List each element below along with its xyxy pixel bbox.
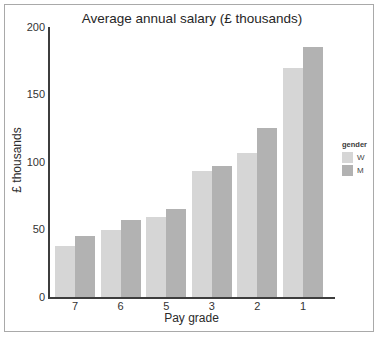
bar-W-grade-5	[146, 217, 166, 297]
legend-label-w: W	[357, 153, 365, 162]
bar-W-grade-3	[192, 171, 212, 297]
legend-swatch-m	[342, 165, 353, 176]
bar-W-grade-6	[101, 230, 121, 298]
legend-item-m: M	[342, 165, 367, 176]
bar-M-grade-1	[303, 47, 323, 297]
chart-window: Average annual salary (£ thousands) £ th…	[0, 0, 381, 341]
chart-title: Average annual salary (£ thousands)	[60, 11, 324, 26]
bar-M-grade-5	[166, 209, 186, 297]
bar-W-grade-2	[237, 153, 257, 297]
y-tick-label-0: 0	[15, 292, 45, 303]
y-tick-label-100: 100	[15, 157, 45, 168]
y-tick-label-200: 200	[15, 22, 45, 33]
bar-W-grade-7	[55, 246, 75, 297]
bar-M-grade-6	[121, 220, 141, 297]
legend: gender W M	[342, 140, 367, 178]
y-tick-label-50: 50	[15, 224, 45, 235]
bar-M-grade-7	[75, 236, 95, 297]
bar-M-grade-3	[212, 166, 232, 297]
legend-label-m: M	[357, 166, 364, 175]
y-tick-label-150: 150	[15, 89, 45, 100]
x-axis-title: Pay grade	[48, 311, 335, 325]
bar-W-grade-1	[283, 68, 303, 298]
legend-title: gender	[342, 140, 367, 149]
bar-M-grade-2	[257, 128, 277, 297]
legend-swatch-w	[342, 152, 353, 163]
legend-item-w: W	[342, 152, 367, 163]
y-axis-line	[48, 27, 50, 297]
